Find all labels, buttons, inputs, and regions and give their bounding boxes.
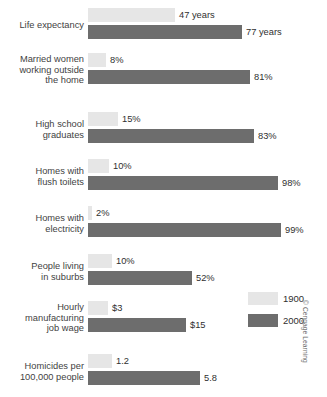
row-bars: 8%81% — [88, 51, 300, 93]
bar-value-label: $15 — [186, 319, 206, 331]
chart-row: Homes withelectricity2%99% — [0, 204, 300, 246]
category-label: Homes withelectricity — [0, 213, 84, 234]
series-2000-bar — [88, 318, 186, 332]
legend-label: 1900 — [283, 292, 304, 305]
bar-value-label: $3 — [108, 302, 122, 314]
series-1900-bar — [88, 159, 109, 173]
category-label-line: electricity — [0, 224, 84, 235]
category-label-line: High school — [0, 119, 84, 130]
category-label-line: graduates — [0, 130, 84, 141]
bar-value-label: 1.2 — [112, 355, 129, 367]
series-2000-bar — [88, 271, 192, 285]
bar-value-label: 98% — [278, 177, 301, 189]
bar-value-label: 5.8 — [200, 372, 217, 384]
chart-row: Married womenworking outsidethe home8%81… — [0, 51, 300, 93]
series-2000-bar — [88, 371, 200, 385]
category-label: Married womenworking outsidethe home — [0, 54, 84, 86]
series-1900-bar — [88, 112, 118, 126]
bar-value-label: 15% — [118, 113, 141, 125]
chart-row: Homes withflush toilets10%98% — [0, 157, 300, 199]
category-label: Hourlymanufacturingjob wage — [0, 302, 84, 334]
row-bars: 47 years77 years — [88, 6, 300, 48]
category-label-line: People living — [0, 261, 84, 272]
category-label-line: Life expectancy — [0, 20, 84, 31]
series-1900-bar — [88, 354, 112, 368]
bar-value-label: 47 years — [175, 9, 215, 21]
category-label-line: Hourly — [0, 302, 84, 313]
category-label-line: Married women — [0, 54, 84, 65]
category-label-line: job wage — [0, 323, 84, 334]
category-label-line: the home — [0, 75, 84, 86]
category-label: Life expectancy — [0, 20, 84, 31]
category-label-line: working outside — [0, 65, 84, 76]
series-2000-bar — [88, 25, 242, 39]
row-bars: 10%52% — [88, 252, 300, 294]
chart-row: People livingin suburbs10%52% — [0, 252, 300, 294]
series-1900-bar — [88, 301, 108, 315]
series-2000-bar — [88, 129, 254, 143]
category-label-line: flush toilets — [0, 177, 84, 188]
category-label: Homicides per100,000 people — [0, 361, 84, 382]
row-bars: 15%83% — [88, 110, 300, 152]
row-bars: 1.25.8 — [88, 352, 300, 394]
legend-swatch — [248, 292, 278, 305]
bar-chart: Life expectancy47 years77 yearsMarried w… — [0, 0, 327, 397]
category-label-line: 100,000 people — [0, 372, 84, 383]
category-label-line: Homicides per — [0, 361, 84, 372]
series-1900-bar — [88, 8, 175, 22]
legend-label: 2000 — [283, 314, 304, 327]
category-label-line: in suburbs — [0, 272, 84, 283]
bar-value-label: 8% — [106, 54, 123, 66]
category-label-line: Homes with — [0, 166, 84, 177]
series-2000-bar — [88, 70, 250, 84]
series-1900-bar — [88, 53, 106, 67]
bar-value-label: 99% — [281, 224, 304, 236]
bar-value-label: 83% — [254, 130, 277, 142]
bar-value-label: 10% — [109, 160, 132, 172]
bar-value-label: 81% — [250, 71, 273, 83]
series-2000-bar — [88, 176, 278, 190]
bar-value-label: 10% — [112, 255, 135, 267]
bar-value-label: 2% — [92, 207, 109, 219]
chart-row: Life expectancy47 years77 years — [0, 6, 300, 48]
category-label: Homes withflush toilets — [0, 166, 84, 187]
bar-value-label: 52% — [192, 272, 215, 284]
bar-value-label: 77 years — [242, 26, 282, 38]
copyright-notice: © Cengage Learning — [302, 300, 309, 363]
category-label: High schoolgraduates — [0, 119, 84, 140]
chart-row: High schoolgraduates15%83% — [0, 110, 300, 152]
row-bars: 10%98% — [88, 157, 300, 199]
chart-row: Homicides per100,000 people1.25.8 — [0, 352, 300, 394]
category-label: People livingin suburbs — [0, 261, 84, 282]
category-label-line: manufacturing — [0, 313, 84, 324]
series-2000-bar — [88, 223, 281, 237]
row-bars: 2%99% — [88, 204, 300, 246]
legend-swatch — [248, 314, 278, 327]
category-label-line: Homes with — [0, 213, 84, 224]
series-1900-bar — [88, 254, 112, 268]
